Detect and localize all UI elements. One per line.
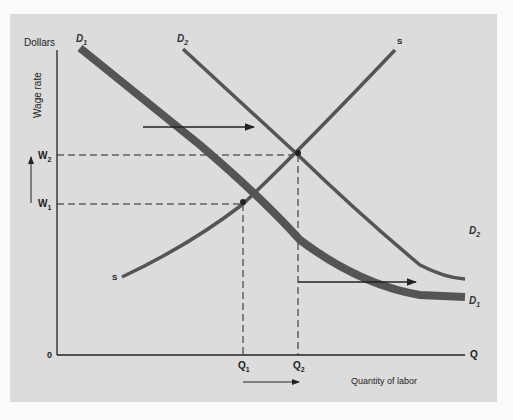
dollars-label: Dollars (24, 37, 55, 48)
d1-top-label: D1 (76, 33, 87, 46)
w2-label: W2 (38, 150, 51, 163)
s-bottom-label: S (112, 273, 118, 282)
equilibrium-point-2 (295, 150, 301, 156)
q-axis-label: Q (470, 349, 478, 360)
q1-label: Q1 (238, 360, 250, 373)
origin-label: 0 (47, 350, 52, 360)
equilibrium-point-1 (240, 199, 246, 205)
quantity-of-labor-label: Quantity of labor (351, 376, 417, 386)
demand-curve-d1 (80, 48, 465, 297)
w1-label: W1 (38, 198, 51, 211)
labor-market-chart: Dollars Wage rate 0 Q Quantity of labor … (0, 0, 513, 420)
q2-label: Q2 (293, 360, 305, 373)
d2-right-label: D2 (469, 225, 480, 238)
d1-right-label: D1 (469, 295, 480, 308)
s-top-label: S (397, 37, 403, 46)
supply-curve-s (122, 50, 395, 277)
wage-rate-label: Wage rate (32, 72, 43, 118)
d2-top-label: D2 (177, 33, 188, 46)
